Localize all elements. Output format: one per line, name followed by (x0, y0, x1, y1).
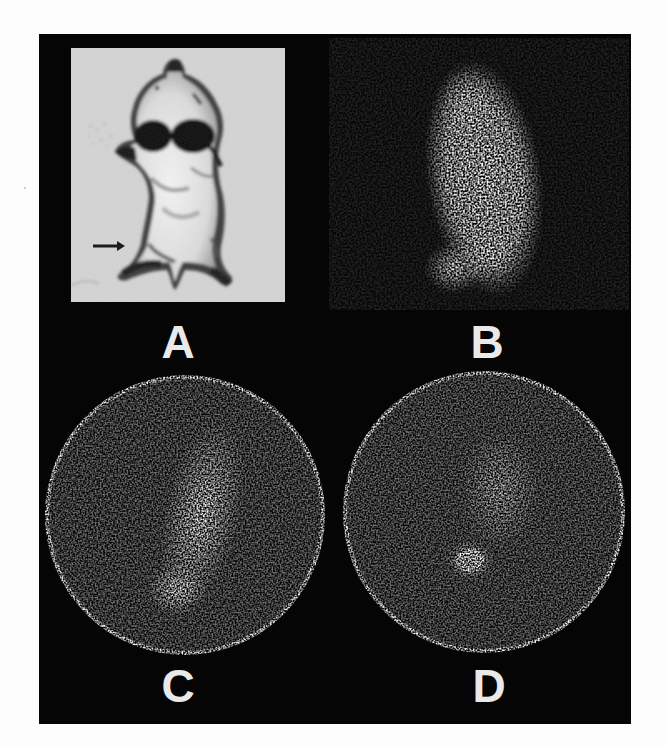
panel-b-scintigram (329, 38, 629, 310)
panel-c-scintigram (42, 374, 328, 656)
panel-a-photo (71, 48, 285, 302)
panel-label-d: D (459, 663, 519, 709)
scintigram-d-image (340, 370, 628, 654)
figure-frame: A (39, 34, 631, 724)
scintigram-c-image (42, 374, 328, 656)
panel-label-b: B (457, 319, 517, 365)
stray-speck (24, 187, 26, 189)
panel-d-scintigram (340, 370, 628, 654)
panel-label-a: A (148, 319, 208, 365)
panel-label-c: C (148, 663, 208, 709)
scintigram-b-image (329, 38, 629, 310)
rat-photo-image (71, 48, 285, 302)
